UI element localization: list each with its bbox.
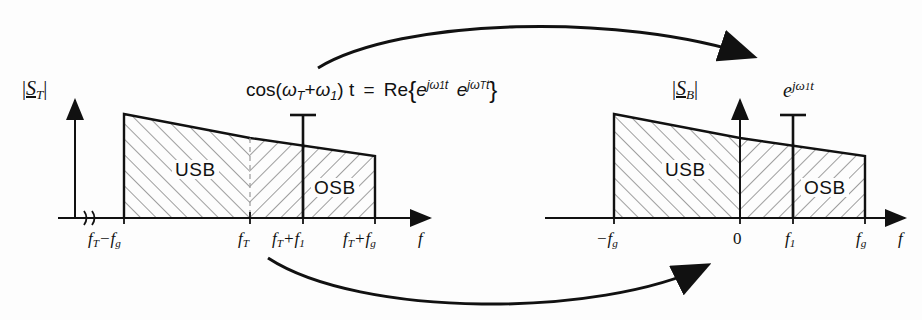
left-osb-label: OSB bbox=[311, 178, 359, 197]
modulation-arrow-top bbox=[318, 26, 752, 68]
right-osb-label: OSB bbox=[801, 178, 849, 197]
right-plot-group bbox=[545, 100, 905, 224]
right-tick-label-upper: fg bbox=[856, 230, 866, 249]
right-tick-label-lower: −fg bbox=[596, 230, 618, 249]
right-y-axis-label: |SB| bbox=[672, 78, 698, 101]
diagram-vector-layer bbox=[0, 0, 922, 320]
left-plot-group bbox=[58, 100, 430, 225]
left-tick-label-carrier: fT bbox=[238, 230, 249, 249]
left-usb-label: USB bbox=[172, 160, 219, 179]
figure-canvas: |ST| |SB| cos(ωT+ω1) t = Re{ejω1t ejωTt}… bbox=[0, 0, 922, 320]
right-tick-label-tone: f1 bbox=[785, 230, 795, 249]
left-tick-label-lower: fT−fg bbox=[88, 230, 121, 249]
baseband-exponential-label: ejω1t bbox=[783, 79, 814, 100]
left-x-axis-label: f bbox=[418, 230, 423, 247]
left-tick-label-upper: fT+fg bbox=[343, 230, 376, 249]
right-tick-label-origin: 0 bbox=[733, 230, 742, 247]
right-usb-label: USB bbox=[662, 160, 709, 179]
modulation-formula: cos(ωT+ω1) t = Re{ejω1t ejωTt} bbox=[246, 78, 497, 102]
left-y-axis-label: |ST| bbox=[22, 78, 47, 101]
right-x-axis-label: f bbox=[898, 230, 903, 247]
left-tick-label-tone: fT+f1 bbox=[272, 230, 305, 249]
demodulation-arrow-bottom bbox=[268, 258, 706, 304]
